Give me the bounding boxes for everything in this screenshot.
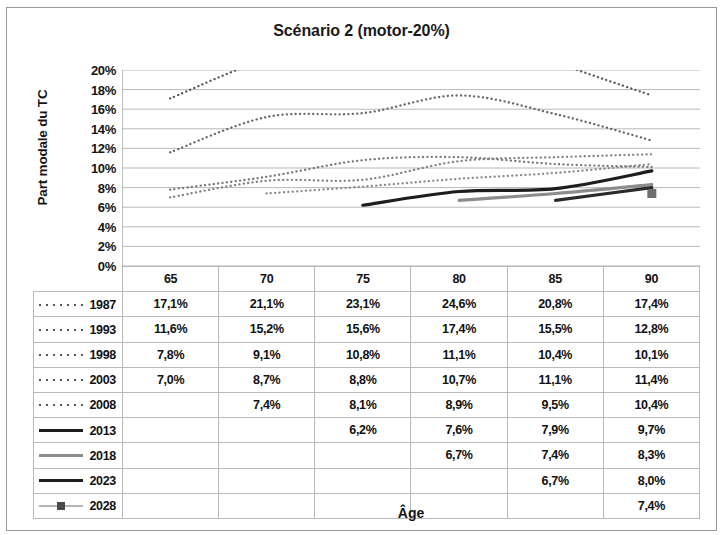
legend-label: 2023 — [89, 474, 116, 488]
legend-label: 2018 — [89, 449, 116, 463]
table-cell — [219, 418, 315, 443]
legend-cell-2028: 2028 — [34, 493, 123, 518]
table-cell — [315, 443, 411, 468]
legend-label: 2008 — [89, 398, 116, 412]
legend-label: 1987 — [89, 298, 116, 312]
table-cell: 9,1% — [219, 342, 315, 367]
data-table: 657075808590 198717,1%21,1%23,1%24,6%20,… — [33, 266, 700, 519]
table-cell: 10,4% — [603, 392, 699, 417]
table-cell: 23,1% — [315, 292, 411, 317]
table-cell: 8,7% — [219, 367, 315, 392]
table-cell: 9,5% — [507, 392, 603, 417]
table-cell: 9,7% — [603, 418, 699, 443]
table-cell: 10,1% — [603, 342, 699, 367]
legend-cell-1998: 1998 — [34, 342, 123, 367]
table-cell — [123, 418, 219, 443]
plot-area — [122, 70, 700, 266]
table-row: 20087,4%8,1%8,9%9,5%10,4% — [34, 392, 700, 417]
legend-cell-2023: 2023 — [34, 468, 123, 493]
legend-line-swatch-icon — [38, 451, 84, 461]
table-cell: 17,1% — [123, 292, 219, 317]
table-corner-cell — [34, 267, 123, 292]
table-row: 20186,7%7,4%8,3% — [34, 443, 700, 468]
table-cell: 8,3% — [603, 443, 699, 468]
table-cell: 15,6% — [315, 317, 411, 342]
y-tick-label: 20% — [70, 63, 116, 78]
legend-cell-2013: 2013 — [34, 418, 123, 443]
legend-line-swatch-icon — [38, 426, 84, 436]
table-cell — [219, 443, 315, 468]
table-cell: 17,4% — [411, 317, 507, 342]
legend-line-swatch-icon — [38, 375, 84, 385]
y-tick-label: 12% — [70, 141, 116, 156]
table-cell: 7,0% — [123, 367, 219, 392]
table-cell: 7,6% — [411, 418, 507, 443]
column-header-age-85: 85 — [507, 267, 603, 292]
table-cell — [123, 468, 219, 493]
table-row: 20037,0%8,7%8,8%10,7%11,1%11,4% — [34, 367, 700, 392]
series-line — [170, 70, 652, 98]
chart-canvas — [122, 70, 700, 266]
column-header-age-90: 90 — [603, 267, 699, 292]
y-tick-label: 10% — [70, 161, 116, 176]
series-2028 — [647, 189, 656, 198]
y-tick-label: 18% — [70, 82, 116, 97]
series-marker — [647, 189, 656, 198]
chart-title: Scénario 2 (motor-20%) — [0, 22, 723, 40]
legend-cell-1993: 1993 — [34, 317, 123, 342]
table-cell: 8,0% — [603, 468, 699, 493]
legend-line-swatch-icon — [38, 400, 84, 410]
table-cell — [411, 468, 507, 493]
table-cell: 15,2% — [219, 317, 315, 342]
table-cell: 7,4% — [219, 392, 315, 417]
column-header-age-70: 70 — [219, 267, 315, 292]
y-tick-label: 6% — [70, 200, 116, 215]
table-cell: 6,7% — [507, 468, 603, 493]
table-cell: 6,2% — [315, 418, 411, 443]
y-tick-label: 8% — [70, 180, 116, 195]
y-axis-title: Part modale du TC — [35, 73, 50, 223]
series-line — [170, 95, 652, 152]
table-row: 20236,7%8,0% — [34, 468, 700, 493]
legend-line-swatch-icon — [38, 300, 84, 310]
table-cell: 10,7% — [411, 367, 507, 392]
y-tick-label: 14% — [70, 121, 116, 136]
x-axis-title: Âge — [122, 505, 700, 521]
table-cell: 11,4% — [603, 367, 699, 392]
table-cell: 24,6% — [411, 292, 507, 317]
table-row: 20136,2%7,6%7,9%9,7% — [34, 418, 700, 443]
legend-cell-2008: 2008 — [34, 392, 123, 417]
legend-label: 2003 — [89, 373, 116, 387]
table-body: 198717,1%21,1%23,1%24,6%20,8%17,4%199311… — [34, 292, 700, 519]
legend-cell-2018: 2018 — [34, 443, 123, 468]
table-cell: 8,1% — [315, 392, 411, 417]
legend-line-swatch-icon — [38, 501, 84, 511]
table-row: 19987,8%9,1%10,8%11,1%10,4%10,1% — [34, 342, 700, 367]
chart-page: Scénario 2 (motor-20%) Part modale du TC… — [0, 0, 723, 535]
table-cell: 7,4% — [507, 443, 603, 468]
table-cell: 21,1% — [219, 292, 315, 317]
series-1987 — [170, 70, 652, 98]
table-header-row: 657075808590 — [34, 267, 700, 292]
series-1993 — [170, 95, 652, 152]
table-cell: 8,9% — [411, 392, 507, 417]
table-cell: 11,1% — [411, 342, 507, 367]
column-header-age-65: 65 — [123, 267, 219, 292]
table-cell: 10,4% — [507, 342, 603, 367]
table-cell: 15,5% — [507, 317, 603, 342]
series-layer — [170, 70, 656, 205]
y-axis-tick-labels: 20%18%16%14%12%10%8%6%4%2%0% — [64, 70, 116, 266]
table-cell: 10,8% — [315, 342, 411, 367]
legend-label: 2028 — [89, 499, 116, 513]
table-cell: 20,8% — [507, 292, 603, 317]
table-row: 199311,6%15,2%15,6%17,4%15,5%12,8% — [34, 317, 700, 342]
column-header-age-80: 80 — [411, 267, 507, 292]
table-cell: 8,8% — [315, 367, 411, 392]
legend-label: 1993 — [89, 323, 116, 337]
legend-label: 1998 — [89, 348, 116, 362]
table-cell — [219, 468, 315, 493]
table-cell: 11,6% — [123, 317, 219, 342]
legend-label: 2013 — [89, 424, 116, 438]
legend-cell-2003: 2003 — [34, 367, 123, 392]
y-tick-label: 4% — [70, 219, 116, 234]
